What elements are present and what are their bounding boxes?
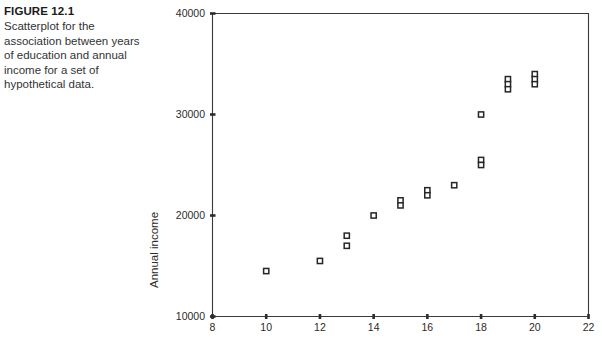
x-tick-label: 18 [475,321,487,333]
data-point-marker [505,87,510,92]
x-tick-label: 14 [368,321,380,333]
data-point-marker [264,268,269,273]
data-point-marker [344,233,349,238]
y-tick-label: 20000 [176,209,205,221]
y-tick-label: 40000 [176,7,205,19]
scatterplot-chart: 10000200003000040000 810121416182022 Ann… [0,0,602,358]
y-axis-ticks: 10000200003000040000 [176,7,216,322]
data-point-marker [371,213,376,218]
x-tick-label: 10 [260,321,272,333]
data-point-marker [398,203,403,208]
data-point-marker [532,82,537,87]
x-tick-label: 16 [422,321,434,333]
data-point-marker [478,162,483,167]
y-tick-label: 10000 [176,310,205,322]
x-tick-label: 20 [529,321,541,333]
data-point-marker [478,112,483,117]
x-tick-label: 8 [210,321,216,333]
x-tick-label: 12 [314,321,326,333]
data-point-marker [344,243,349,248]
y-tick-label: 30000 [176,108,205,120]
chart-svg: 10000200003000040000 810121416182022 Ann… [0,0,602,358]
data-point-group [264,72,538,274]
data-point-marker [425,193,430,198]
data-point-marker [317,258,322,263]
y-axis-title: Annual income [148,212,160,288]
data-point-marker [452,183,457,188]
x-tick-label: 22 [583,321,595,333]
